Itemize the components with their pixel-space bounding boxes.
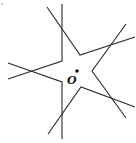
line-right bbox=[92, 24, 126, 118]
stray-mark bbox=[1, 3, 2, 4]
line-bottom-vertical bbox=[8, 63, 62, 139]
line-bottom-diagonal bbox=[48, 87, 135, 134]
star-diagram: O bbox=[0, 0, 136, 143]
center-label: O bbox=[67, 74, 77, 87]
center-point bbox=[75, 69, 79, 73]
line-top-vertical bbox=[8, 4, 62, 79]
line-top-diagonal bbox=[47, 7, 135, 55]
